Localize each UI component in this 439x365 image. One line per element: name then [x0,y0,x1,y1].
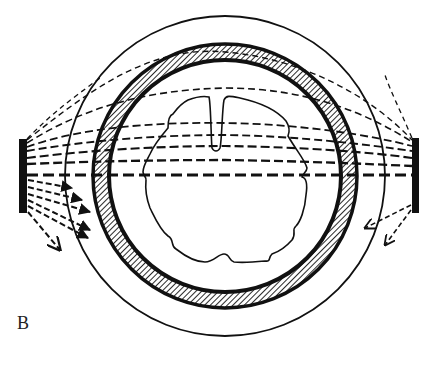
left-source-bar [19,139,27,213]
right-source-bar [412,138,419,213]
panel-label: B [17,313,29,334]
diagram-canvas [0,0,439,365]
scattered-arrows-left [28,180,90,250]
diagram-figure: B [0,0,439,365]
brain-outline [143,96,307,262]
